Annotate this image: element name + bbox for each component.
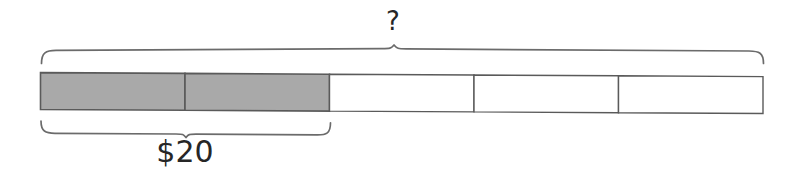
top-brace (42, 45, 764, 64)
tape-cell-5-empty (619, 76, 764, 114)
tape-cell-3-empty (330, 74, 475, 112)
tape-cell-2-shaded (185, 73, 330, 111)
tape-cell-4-empty (474, 75, 619, 113)
tape-cell-1-shaded (41, 73, 186, 111)
tape-bar (41, 73, 764, 114)
part-value-label: $20 (0, 137, 370, 167)
tape-diagram: ? $20 (0, 0, 802, 193)
tape-diagram-scene: ? $20 (0, 0, 802, 193)
total-unknown-label: ? (0, 8, 794, 34)
